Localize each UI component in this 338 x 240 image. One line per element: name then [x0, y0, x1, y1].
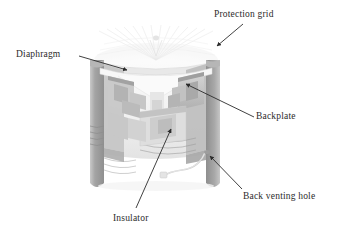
- base-shadow: [98, 181, 214, 191]
- callout-label-diaphragm: Diaphragm: [16, 49, 60, 60]
- callout-label-back-venting-hole: Back venting hole: [243, 191, 315, 202]
- callout-label-backplate: Backplate: [256, 111, 296, 122]
- callout-label-protection-grid: Protection grid: [214, 9, 274, 20]
- leader-protection-grid: [217, 24, 243, 46]
- figure-page: Protection grid Diaphragm Backplate Back…: [0, 0, 338, 240]
- callout-label-insulator: Insulator: [113, 213, 148, 224]
